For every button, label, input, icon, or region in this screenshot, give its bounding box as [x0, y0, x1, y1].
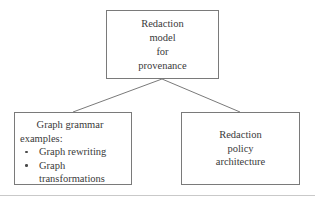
- list-item-label-continuation: transformations: [39, 172, 127, 186]
- diagram-canvas: Redaction model for provenance Graph gra…: [0, 0, 315, 201]
- list-item: Graph transformations: [19, 159, 127, 186]
- node-root-line-4: provenance: [138, 59, 186, 73]
- node-redaction-policy-line-1: Redaction: [219, 128, 262, 142]
- graph-grammar-bullet-list: Graph rewriting Graph transformations: [19, 145, 127, 186]
- connector-root-to-redaction-policy: [162, 79, 240, 112]
- node-graph-grammar-examples[interactable]: Graph grammar examples: Graph rewriting …: [14, 112, 132, 185]
- round-bullet-icon: [25, 164, 28, 167]
- node-root-line-3: for: [156, 45, 168, 59]
- connector-root-to-graph-grammar: [73, 79, 162, 112]
- list-item-label: Graph: [39, 160, 65, 171]
- node-graph-grammar-heading-line-1: Graph grammar: [19, 118, 127, 132]
- node-root-line-1: Redaction: [141, 17, 184, 31]
- list-item: Graph rewriting: [19, 145, 127, 159]
- node-redaction-policy-architecture[interactable]: Redaction policy architecture: [181, 112, 300, 185]
- list-item-label: Graph rewriting: [39, 146, 106, 157]
- node-redaction-model-for-provenance[interactable]: Redaction model for provenance: [106, 10, 219, 79]
- page-divider: [0, 195, 315, 196]
- node-graph-grammar-heading-line-2: examples:: [19, 132, 127, 146]
- node-redaction-policy-line-3: architecture: [216, 155, 266, 169]
- node-redaction-policy-line-2: policy: [227, 142, 253, 156]
- node-root-line-2: model: [149, 31, 175, 45]
- round-bullet-icon: [25, 151, 28, 154]
